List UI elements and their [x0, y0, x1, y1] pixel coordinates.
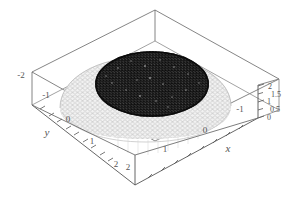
y-axis-title: y	[44, 126, 50, 138]
y-tick-label--2: -2	[17, 70, 25, 80]
surface-dome	[55, 49, 240, 155]
x-tick-label-0: 0	[203, 125, 208, 135]
z-tick-label-0: 0	[267, 113, 271, 122]
y-tick-label-0: 0	[66, 114, 71, 124]
z-tick-label-1.5: 1.5	[271, 90, 281, 99]
y-tick-label-2: 2	[114, 159, 119, 169]
x-tick-label-1: 1	[163, 144, 168, 154]
x-tick-label-2: 2	[126, 162, 131, 172]
y-tick-label-1: 1	[90, 136, 95, 146]
x-axis-title: x	[225, 142, 231, 154]
plot-canvas: -2 -1 0 1 2 2 1 0 -1 2 1.5 1 0.5 0 y x	[0, 0, 295, 197]
y-tick-label--1: -1	[42, 90, 50, 100]
x-tick-label--1: -1	[236, 104, 244, 114]
surface-plot-figure: -2 -1 0 1 2 2 1 0 -1 2 1.5 1 0.5 0 y x	[0, 0, 295, 197]
z-tick-label-0.5: 0.5	[270, 105, 280, 114]
